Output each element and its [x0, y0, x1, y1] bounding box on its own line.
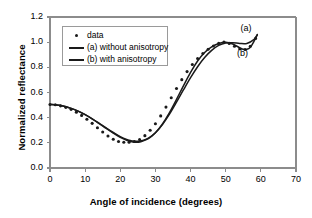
curve-label: (b) [237, 48, 248, 58]
curve-label: (a) [241, 23, 252, 33]
data-point [85, 118, 88, 121]
data-point [159, 114, 162, 117]
y-tick-label: 0.8 [17, 61, 43, 71]
legend-item-without-anisotropy: (a) without anisotropy [67, 41, 168, 53]
data-point [128, 141, 131, 144]
data-point [70, 108, 73, 111]
x-tick-label: 0 [37, 174, 63, 184]
data-point [91, 122, 94, 125]
data-point [48, 103, 51, 106]
y-tick-label: 1.0 [17, 36, 43, 46]
data-point [180, 78, 183, 81]
data-point [222, 41, 225, 44]
data-point [212, 44, 215, 47]
data-point [249, 45, 252, 48]
marker-dot-icon [67, 30, 85, 40]
data-point [170, 96, 173, 99]
data-point [207, 48, 210, 51]
y-tick-label: 0.4 [17, 112, 43, 122]
data-point [101, 130, 104, 133]
x-tick-label: 60 [248, 174, 274, 184]
data-point [122, 141, 125, 144]
x-tick-label: 40 [178, 174, 204, 184]
x-tick-label: 70 [283, 174, 309, 184]
data-point [233, 45, 236, 48]
x-tick-label: 30 [142, 174, 168, 184]
x-tick-label: 10 [72, 174, 98, 184]
chart-container: Normalized reflectance Angle of incidenc… [0, 0, 312, 218]
data-point [254, 37, 257, 40]
legend-label: (b) with anisotropy [85, 54, 156, 64]
data-point [164, 106, 167, 109]
data-point [201, 52, 204, 55]
data-point [59, 104, 62, 107]
legend-label: data [85, 30, 104, 40]
data-point [138, 138, 141, 141]
legend-label: (a) without anisotropy [85, 42, 168, 52]
y-tick-label: 0.6 [17, 87, 43, 97]
data-point [217, 42, 220, 45]
y-tick-label: 0.2 [17, 137, 43, 147]
data-point [133, 140, 136, 143]
data-point [186, 70, 189, 73]
x-tick-label: 50 [213, 174, 239, 184]
data-point [96, 126, 99, 129]
data-point [191, 63, 194, 66]
data-point [80, 114, 83, 117]
data-point [149, 129, 152, 132]
y-tick-label: 0.0 [17, 162, 43, 172]
data-point [175, 87, 178, 90]
data-point [228, 42, 231, 45]
line-swatch-icon [67, 42, 85, 52]
data-point [112, 138, 115, 141]
data-point [106, 134, 109, 137]
data-point [54, 103, 57, 106]
legend-item-with-anisotropy: (b) with anisotropy [67, 53, 156, 65]
data-point [196, 57, 199, 60]
data-point [154, 122, 157, 125]
data-point [64, 106, 67, 109]
line-swatch-icon [67, 54, 85, 64]
x-tick-label: 20 [107, 174, 133, 184]
data-point [117, 140, 120, 143]
x-axis-title: Angle of incidence (degrees) [0, 196, 312, 207]
legend-item-data: data [67, 29, 104, 41]
data-point [75, 111, 78, 114]
chart-legend: data (a) without anisotropy (b) with ani… [62, 26, 168, 66]
data-point [143, 134, 146, 137]
y-tick-label: 1.2 [17, 11, 43, 21]
